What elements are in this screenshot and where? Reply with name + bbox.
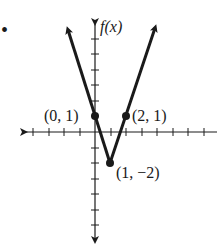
bullet: • bbox=[1, 19, 8, 41]
label-point-1-neg2: (1, −2) bbox=[116, 164, 160, 182]
y-axis-label: f(x) bbox=[100, 18, 122, 36]
label-point-0-1: (0, 1) bbox=[44, 107, 79, 125]
point-2-1 bbox=[122, 112, 130, 120]
y-axis bbox=[91, 22, 99, 240]
point-0-1 bbox=[91, 112, 99, 120]
function-curve bbox=[68, 28, 155, 163]
label-point-2-1: (2, 1) bbox=[132, 107, 167, 125]
point-1-neg2 bbox=[106, 159, 114, 167]
graph: • f(x) (0, 1) (2, 1) (1, −2) bbox=[0, 0, 219, 247]
